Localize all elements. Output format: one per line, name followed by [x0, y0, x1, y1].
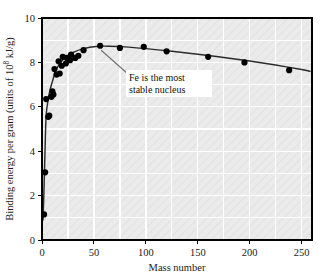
y-tick-label-0: 0 [30, 235, 35, 246]
data-point [51, 66, 57, 72]
data-point [42, 169, 48, 175]
data-point [50, 91, 56, 97]
data-point [97, 43, 103, 49]
data-point [286, 67, 292, 73]
y-axis-ticks [38, 18, 42, 240]
data-point [205, 54, 211, 60]
x-axis-tick-labels: 0 50 100 150 200 250 [39, 247, 309, 258]
annotation-line-2: stable nucleus [129, 84, 185, 95]
chart-canvas: Fe is the most stable nucleus 0 50 100 1… [0, 0, 328, 275]
data-point [80, 47, 86, 53]
fe-annotation: Fe is the most stable nucleus [126, 70, 212, 97]
x-tick-label-150: 150 [190, 247, 206, 258]
y-tick-label-4: 4 [30, 146, 36, 157]
data-point [57, 70, 63, 76]
data-point [117, 45, 123, 51]
data-point [46, 113, 52, 119]
y-tick-label-10: 10 [25, 13, 36, 24]
y-axis-title-suffix: kJ/g) [4, 37, 16, 61]
x-axis-ticks [42, 240, 302, 244]
y-tick-label-8: 8 [30, 57, 35, 68]
y-tick-label-6: 6 [30, 101, 35, 112]
x-tick-label-50: 50 [89, 247, 100, 258]
data-point [75, 53, 81, 59]
annotation-line-1: Fe is the most [129, 72, 185, 83]
data-point [164, 48, 170, 54]
x-axis-title: Mass number [149, 262, 206, 273]
data-point [141, 44, 147, 50]
y-tick-label-2: 2 [30, 190, 35, 201]
y-axis-tick-labels: 0 2 4 6 8 10 [25, 13, 36, 246]
binding-energy-figure: Fe is the most stable nucleus 0 50 100 1… [0, 0, 328, 275]
y-axis-title: Binding energy per gram (units of 108 kJ… [3, 37, 16, 221]
x-tick-label-100: 100 [138, 247, 154, 258]
data-point [241, 59, 247, 65]
x-tick-label-250: 250 [294, 247, 310, 258]
x-tick-label-200: 200 [242, 247, 258, 258]
x-tick-label-0: 0 [39, 247, 44, 258]
y-axis-title-prefix: Binding energy per gram (units of 10 [4, 65, 16, 221]
